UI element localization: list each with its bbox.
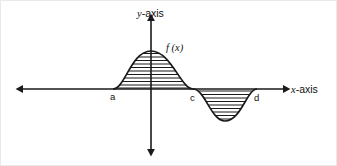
x-axis-label: x-axis [291,83,318,95]
function-graph-svg [1,1,337,166]
x-axis-label-suffix: -axis [296,83,318,95]
function-curve [113,51,257,121]
function-label: f (x) [166,42,183,53]
shaded-region-above-axis [101,54,206,89]
point-label-c: c [190,92,195,103]
y-axis-label: y-axis [137,7,164,19]
point-label-a: a [110,91,115,102]
y-axis-label-suffix: -axis [142,7,164,19]
figure-container: y-axis x-axis f (x) a c d [0,0,337,166]
point-label-d: d [254,92,259,103]
